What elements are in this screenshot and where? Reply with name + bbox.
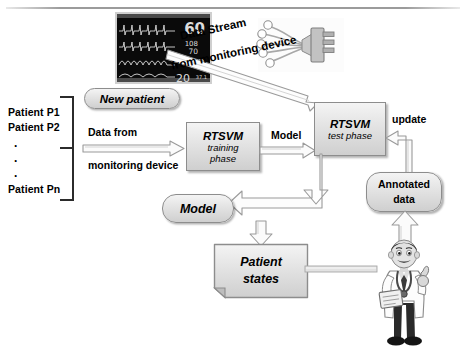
- model-node-label: Model: [180, 202, 216, 216]
- annotated-data-line2: data: [393, 192, 415, 207]
- brace-arm-bottom: [60, 199, 74, 201]
- brace-arm-middle: [60, 147, 74, 149]
- patient-list-ellipsis-3: .: [14, 170, 17, 176]
- model-arrow-label: Model: [271, 129, 301, 141]
- doctor-figure-icon: [368, 235, 440, 350]
- model-node: Model: [162, 194, 234, 223]
- rtsvm-test-phase-node: RTSVM test phase: [314, 102, 386, 156]
- rtsvm-training-sub1: training: [207, 142, 238, 153]
- patient-label-p1: Patient P1: [8, 106, 60, 118]
- patient-label-p2: Patient P2: [8, 121, 60, 133]
- data-from-label-line2: monitoring device: [88, 159, 178, 171]
- patient-states-node: Patient states: [213, 243, 309, 299]
- rtsvm-training-title: RTSVM: [203, 130, 243, 142]
- update-arrow-label: update: [392, 113, 426, 125]
- data-from-label-line1: Data from: [88, 126, 137, 138]
- brace-arm-top: [60, 96, 74, 98]
- patient-label-pn: Patient Pn: [8, 183, 60, 195]
- header-divider: [6, 7, 460, 9]
- patient-list-ellipsis-1: .: [14, 140, 17, 146]
- patient-list-ellipsis-2: .: [14, 155, 17, 161]
- annotated-data-line1: Annotated: [378, 177, 430, 192]
- patient-states-line2: states: [243, 271, 279, 288]
- patient-states-line1: Patient: [240, 254, 282, 271]
- update-feedback-arrow: [384, 126, 420, 178]
- new-patient-node: New patient: [84, 88, 180, 109]
- annotated-data-node: Annotated data: [366, 172, 442, 212]
- data-from-arrow: [82, 140, 186, 158]
- rtsvm-test-title: RTSVM: [330, 118, 370, 130]
- test-phase-to-model-arrow: [228, 154, 336, 216]
- new-patient-label: New patient: [100, 93, 165, 105]
- rtsvm-test-sub: test phase: [328, 130, 372, 141]
